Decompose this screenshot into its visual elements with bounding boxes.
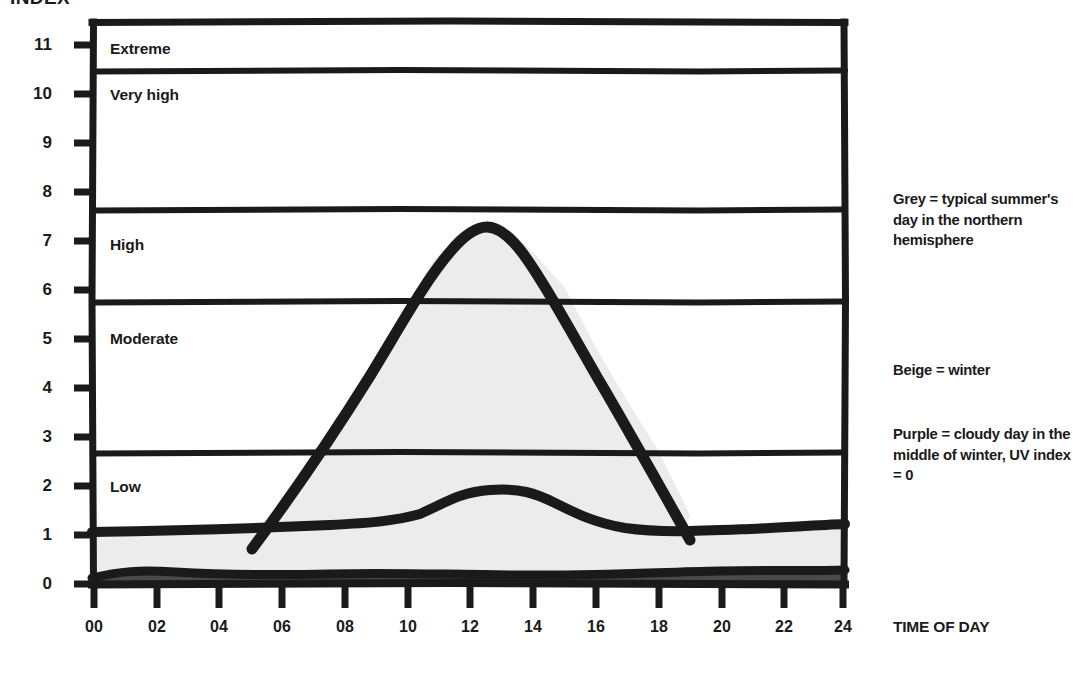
legend-note-purple: Purple = cloudy day in the middle of win… [893, 424, 1081, 486]
x-tick-label-04: 04 [199, 618, 239, 636]
y-tick-label-9: 9 [22, 133, 52, 153]
y-tick-label-2: 2 [22, 476, 52, 496]
y-tick-label-7: 7 [22, 231, 52, 251]
y-tick-label-5: 5 [22, 329, 52, 349]
x-tick-label-14: 14 [513, 618, 553, 636]
x-tick-label-10: 10 [388, 618, 428, 636]
legend-note-grey: Grey = typical summer's day in the north… [893, 189, 1081, 251]
y-tick-label-6: 6 [22, 280, 52, 300]
band-label-very-high: Very high [110, 86, 179, 104]
x-axis-title: TIME OF DAY [893, 618, 989, 636]
x-tick-label-20: 20 [702, 618, 742, 636]
x-tick-label-08: 08 [325, 618, 365, 636]
band-label-moderate: Moderate [110, 330, 178, 348]
y-tick-label-10: 10 [22, 84, 52, 104]
band-label-high: High [110, 236, 144, 254]
y-tick-label-4: 4 [22, 378, 52, 398]
x-tick-label-06: 06 [262, 618, 302, 636]
x-tick-label-22: 22 [764, 618, 804, 636]
x-tick-label-12: 12 [450, 618, 490, 636]
y-tick-label-1: 1 [22, 525, 52, 545]
y-tick-label-11: 11 [22, 35, 52, 55]
x-tick-label-16: 16 [576, 618, 616, 636]
y-tick-label-0: 0 [22, 574, 52, 594]
legend-note-beige: Beige = winter [893, 360, 1081, 381]
x-tick-label-18: 18 [639, 618, 679, 636]
x-tick-label-24: 24 [823, 618, 863, 636]
y-tick-label-8: 8 [22, 182, 52, 202]
x-tick-label-00: 00 [74, 618, 114, 636]
band-label-extreme: Extreme [110, 40, 170, 58]
x-tick-label-02: 02 [137, 618, 177, 636]
band-label-low: Low [110, 478, 141, 496]
y-tick-label-3: 3 [22, 427, 52, 447]
